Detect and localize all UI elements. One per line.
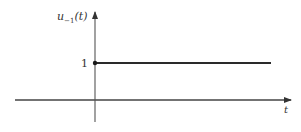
y-axis-label-subscript: −1	[64, 17, 74, 25]
unit-step-diagram: 1 u−1(t) t	[0, 0, 301, 132]
y-axis-label-base: u	[57, 10, 64, 23]
level-label: 1	[81, 57, 88, 70]
x-axis-label: t	[284, 104, 289, 115]
y-axis-label: u−1(t)	[57, 10, 87, 25]
y-axis-label-arg: (t)	[74, 10, 87, 23]
step-start-dot	[93, 61, 97, 65]
